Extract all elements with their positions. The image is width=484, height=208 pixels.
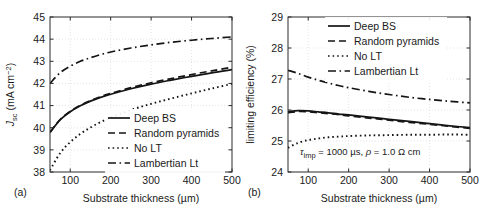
legend-label-deep-bs: Deep BS	[354, 20, 396, 32]
x-tick-label: 400	[421, 174, 439, 186]
y-tick-label: 27	[271, 73, 283, 85]
y-tick-label: 45	[33, 11, 45, 23]
chart-panel-a: 1002003004005003839404142434445Substrate…	[0, 0, 242, 208]
panel-tag: (b)	[248, 186, 261, 198]
x-tick-label: 500	[223, 174, 241, 186]
chart-panel-b: 100200300400500242526272829Substrate thi…	[242, 0, 484, 208]
x-tick-label: 100	[61, 174, 79, 186]
y-tick-label: 39	[33, 144, 45, 156]
x-tick-label: 500	[461, 174, 479, 186]
x-tick-label: 200	[340, 174, 358, 186]
plot-svg: 100200300400500242526272829Substrate thi…	[242, 0, 484, 208]
x-tick-label: 300	[142, 174, 160, 186]
y-axis-title: limiting efficiency (%)	[244, 45, 256, 143]
plot-svg: 1002003004005003839404142434445Substrate…	[0, 0, 242, 208]
legend-label-random-pyramids: Random pyramids	[134, 127, 219, 139]
legend: Deep BSRandom pyramidsNo LTLambertian Lt	[325, 17, 447, 82]
x-tick-label: 100	[299, 174, 317, 186]
series-line-lambertian-lt	[50, 37, 232, 84]
x-axis-title: Substrate thickness (µm)	[83, 192, 199, 204]
x-axis-title: Substrate thickness (µm)	[321, 192, 437, 204]
legend-label-lambertian-lt: Lambertian Lt	[354, 65, 418, 77]
legend-label-random-pyramids: Random pyramids	[354, 35, 439, 47]
y-tick-label: 41	[33, 99, 45, 111]
y-tick-label: 26	[271, 104, 283, 116]
legend-label-lambertian-lt: Lambertian Lt	[134, 157, 198, 169]
y-tick-label: 43	[33, 55, 45, 67]
y-tick-label: 29	[271, 11, 283, 23]
y-tick-label: 38	[33, 166, 45, 178]
y-tick-label: 24	[271, 166, 283, 178]
legend-label-deep-bs: Deep BS	[134, 112, 176, 124]
series-line-random-pyramids	[288, 112, 470, 129]
y-tick-label: 44	[33, 33, 45, 45]
panel-tag: (a)	[14, 186, 27, 198]
legend-label-no-lt: No LT	[134, 142, 162, 154]
x-tick-label: 200	[102, 174, 120, 186]
y-tick-label: 25	[271, 135, 283, 147]
x-tick-label: 400	[183, 174, 201, 186]
legend-label-no-lt: No LT	[354, 50, 382, 62]
y-tick-label: 28	[271, 42, 283, 54]
figure-container: 1002003004005003839404142434445Substrate…	[0, 0, 484, 208]
y-axis-title: Jsc (mA cm−2)	[4, 63, 19, 127]
x-tick-label: 300	[380, 174, 398, 186]
legend: Deep BSRandom pyramidsNo LTLambertian Lt	[105, 109, 225, 174]
y-tick-label: 42	[33, 77, 45, 89]
y-tick-label: 40	[33, 122, 45, 134]
